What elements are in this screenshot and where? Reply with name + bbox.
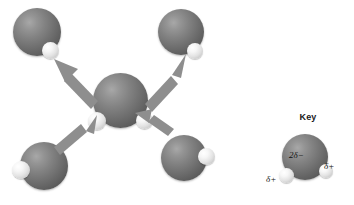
hydrogen-bonding-diagram: Key 2δ− δ+ δ+ [0, 0, 354, 205]
hydrogen-charge-label-left: δ+ [266, 174, 276, 184]
hydrogen-charge-label-right: δ+ [324, 161, 334, 171]
oxygen-charge-label: 2δ− [289, 150, 304, 160]
hydrogen-bond-arrow-from-bottom-right [0, 0, 354, 205]
